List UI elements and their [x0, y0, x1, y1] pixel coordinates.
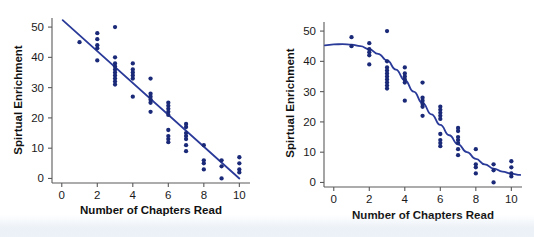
left-data-point: [148, 76, 152, 80]
right-data-point: [474, 147, 478, 151]
left-data-point: [219, 164, 223, 168]
left-data-point: [202, 161, 206, 165]
right-y-tick-label: 50: [303, 25, 316, 37]
left-data-point: [184, 143, 188, 147]
right-data-point: [385, 59, 389, 63]
left-x-tick-label: 10: [233, 189, 246, 201]
left-data-point: [131, 95, 135, 99]
left-data-point: [95, 31, 99, 35]
right-data-point: [438, 144, 442, 148]
left-data-point: [184, 125, 188, 129]
left-data-point: [166, 113, 170, 117]
left-data-point: [148, 110, 152, 114]
right-x-tick-label: 8: [473, 193, 479, 205]
right-data-point: [491, 162, 495, 166]
two-panel-scatterplot-figure: 01020304050 0246810 Number of Chapters R…: [0, 0, 534, 237]
right-x-tick-label: 2: [366, 193, 372, 205]
right-y-tick-label: 30: [303, 86, 316, 98]
left-data-point: [166, 140, 170, 144]
right-data-point: [367, 53, 371, 57]
left-y-ticks-group: 01020304050: [31, 21, 52, 184]
right-data-point: [509, 165, 513, 169]
left-data-point: [184, 137, 188, 141]
right-data-point: [438, 117, 442, 121]
left-data-point: [166, 128, 170, 132]
right-y-tick-label: 40: [303, 55, 316, 67]
left-y-tick-label: 0: [38, 172, 44, 184]
left-data-point: [237, 170, 241, 174]
right-data-point: [385, 86, 389, 90]
left-data-point: [237, 161, 241, 165]
left-y-tick-label: 20: [31, 112, 44, 124]
right-data-point: [420, 80, 424, 84]
right-data-point: [403, 80, 407, 84]
right-data-point: [420, 114, 424, 118]
left-scatterplot-panel: 01020304050 0246810 Number of Chapters R…: [0, 0, 267, 237]
right-data-point: [349, 44, 353, 48]
right-plot-svg: 01020304050 0246810 Number of Chapters R…: [267, 0, 534, 237]
right-y-axis-title: Spirtual Enrichment: [284, 48, 296, 157]
right-data-point: [367, 62, 371, 66]
right-y-tick-label: 10: [303, 146, 316, 158]
left-x-tick-label: 6: [165, 189, 171, 201]
right-data-point: [491, 168, 495, 172]
left-data-point: [184, 149, 188, 153]
left-data-point: [202, 167, 206, 171]
right-data-point: [420, 105, 424, 109]
left-y-axis-title: Spirtual Enrichment: [12, 45, 24, 154]
left-x-tick-label: 8: [201, 189, 207, 201]
right-data-point: [509, 174, 513, 178]
right-data-point: [367, 41, 371, 45]
right-x-tick-label: 4: [402, 193, 409, 205]
right-data-point: [438, 132, 442, 136]
right-data-point: [474, 165, 478, 169]
left-data-point: [95, 46, 99, 50]
right-data-point: [456, 153, 460, 157]
right-x-axis-title: Number of Chapters Read: [352, 209, 494, 221]
right-y-tick-label: 20: [303, 116, 316, 128]
left-data-point: [202, 143, 206, 147]
right-x-tick-label: 0: [331, 193, 337, 205]
right-data-point: [456, 129, 460, 133]
right-data-point: [509, 159, 513, 163]
left-data-point: [219, 158, 223, 162]
left-data-point: [131, 61, 135, 65]
right-y-ticks-group: 01020304050: [303, 25, 324, 188]
left-data-point: [148, 101, 152, 105]
left-x-tick-label: 4: [130, 189, 137, 201]
left-x-axis-title: Number of Chapters Read: [80, 204, 222, 216]
right-data-point: [474, 171, 478, 175]
left-data-point: [77, 40, 81, 44]
right-data-point: [456, 147, 460, 151]
left-data-point: [131, 76, 135, 80]
right-data-point: [491, 180, 495, 184]
right-data-point: [456, 141, 460, 145]
right-scatterplot-panel: 01020304050 0246810 Number of Chapters R…: [267, 0, 534, 237]
left-data-point: [237, 155, 241, 159]
left-y-tick-label: 50: [31, 21, 44, 33]
left-plot-svg: 01020304050 0246810 Number of Chapters R…: [0, 0, 267, 237]
right-data-point: [403, 65, 407, 69]
right-x-ticks-group: 0246810: [331, 187, 518, 205]
left-data-point: [95, 58, 99, 62]
right-sigmoid-curve: [325, 44, 520, 175]
right-x-tick-label: 10: [505, 193, 518, 205]
left-y-tick-label: 30: [31, 82, 44, 94]
right-x-tick-label: 6: [437, 193, 443, 205]
right-fit-group: [325, 44, 520, 175]
left-data-point: [113, 82, 117, 86]
left-x-ticks-group: 0246810: [59, 183, 246, 201]
right-data-point: [403, 99, 407, 103]
left-y-tick-label: 10: [31, 142, 44, 154]
left-data-point: [95, 37, 99, 41]
left-data-point: [219, 176, 223, 180]
right-data-point: [385, 29, 389, 33]
right-data-point: [349, 35, 353, 39]
right-y-tick-label: 0: [310, 176, 316, 188]
left-data-point: [113, 25, 117, 29]
left-x-tick-label: 0: [59, 189, 65, 201]
left-y-tick-label: 40: [31, 51, 44, 63]
left-data-point: [113, 55, 117, 59]
left-x-tick-label: 2: [94, 189, 100, 201]
